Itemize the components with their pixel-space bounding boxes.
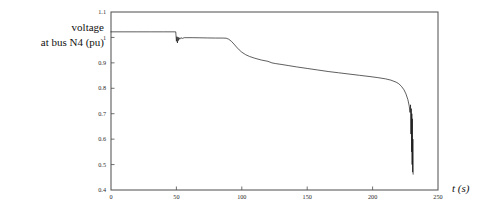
x-axis-title: t (s) [452,182,469,194]
plot-area: 050100150200250 0.40.50.60.70.80.911.1 [0,0,497,217]
y-tick-label: 1.1 [98,8,106,15]
x-tick-label: 250 [433,193,442,200]
y-tick-label: 0.4 [98,186,106,193]
y-tick-label: 0.6 [98,135,106,142]
x-tick-label: 0 [109,193,112,200]
y-tick-label: 0.5 [98,161,106,168]
x-tick-label: 150 [303,193,312,200]
voltage-collapse-figure: voltage at bus N4 (pu) 050100150200250 0… [0,0,497,217]
y-tick-label: 0.9 [98,59,106,66]
x-tick-label: 100 [237,193,246,200]
x-tick-label: 200 [368,193,377,200]
y-tick-label: 1 [103,34,106,41]
x-tick-label: 50 [173,193,179,200]
x-axis-title-text: t (s) [452,182,469,194]
plot-frame [111,12,438,190]
y-tick-label: 0.7 [98,110,106,117]
y-tick-label: 0.8 [98,84,106,91]
